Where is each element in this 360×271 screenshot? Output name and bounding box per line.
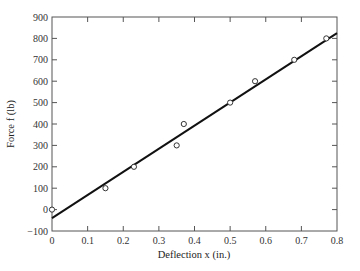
data-point [228, 100, 233, 105]
x-tick-label: 0.6 [260, 235, 273, 246]
x-tick-label: 0.7 [295, 235, 308, 246]
x-tick-label: 0 [50, 235, 55, 246]
data-point [252, 79, 257, 84]
y-tick-label: 700 [33, 54, 48, 65]
data-point [174, 143, 179, 148]
data-point [181, 121, 186, 126]
y-tick-label: 0 [43, 204, 48, 215]
data-points [49, 36, 329, 212]
data-point [131, 164, 136, 169]
x-tick-label: 0.8 [331, 235, 344, 246]
x-tick-label: 0.5 [224, 235, 237, 246]
y-tick-label: 900 [33, 12, 48, 23]
y-axis-label: Force f (lb) [5, 100, 17, 148]
data-point [49, 207, 54, 212]
y-tick-label: 500 [33, 97, 48, 108]
data-point [292, 57, 297, 62]
plot-frame [52, 17, 337, 231]
data-point [103, 186, 108, 191]
plot-border [52, 17, 337, 231]
y-tick-label: 200 [33, 161, 48, 172]
y-tick-label: 800 [33, 33, 48, 44]
data-point [324, 36, 329, 41]
x-tick-label: 0.1 [81, 235, 94, 246]
y-tick-label: 600 [33, 76, 48, 87]
y-tick-label: −100 [27, 226, 48, 237]
y-tick-label: 400 [33, 119, 48, 130]
x-tick-label: 0.4 [188, 235, 201, 246]
x-axis-label: Deflection x (in.) [158, 249, 231, 261]
scatter-chart: 00.10.20.30.40.50.60.70.8 −1000100200300… [0, 0, 360, 271]
y-tick-label: 100 [33, 183, 48, 194]
x-axis-ticks: 00.10.20.30.40.50.60.70.8 [50, 17, 344, 246]
y-tick-label: 300 [33, 140, 48, 151]
x-tick-label: 0.3 [153, 235, 166, 246]
x-tick-label: 0.2 [117, 235, 130, 246]
